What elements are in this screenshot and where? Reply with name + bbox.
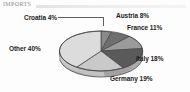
pie-label-germany: Germany 19%: [110, 75, 152, 83]
pie-label-austria: Austria 8%: [116, 12, 149, 20]
header-rule: [36, 5, 186, 8]
chart-figure: IMPORTS: [0, 0, 190, 92]
pie-label-croatia: Croatia 4%: [24, 14, 57, 22]
pie-label-italy: Italy 18%: [136, 55, 163, 63]
chart-stage: Croatia 4% Austria 8% France 11% Italy 1…: [0, 9, 190, 92]
pie-label-france: France 11%: [127, 24, 162, 32]
leader-line-croatia: [58, 17, 104, 18]
pie-label-other: Other 40%: [9, 45, 41, 53]
leader-line-croatia-drop: [103, 17, 104, 26]
page-title: IMPORTS: [3, 1, 31, 7]
